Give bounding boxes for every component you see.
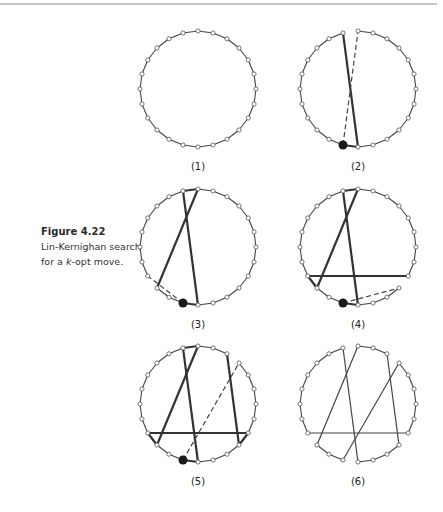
city-node — [225, 195, 229, 199]
city-node — [196, 344, 200, 348]
added-edge — [157, 346, 198, 445]
city-node — [327, 352, 331, 356]
city-node — [254, 245, 258, 249]
city-node — [412, 102, 416, 106]
city-node — [252, 72, 256, 76]
city-node — [155, 361, 159, 365]
panel-label: (3) — [191, 319, 205, 330]
city-node — [356, 29, 360, 33]
city-node — [211, 189, 215, 193]
city-node — [371, 189, 375, 193]
added-edge — [317, 189, 358, 288]
city-node — [327, 37, 331, 41]
city-node — [414, 87, 418, 91]
city-node — [254, 402, 258, 406]
city-node — [371, 458, 375, 462]
start-node — [178, 299, 187, 308]
city-node — [371, 346, 375, 350]
city-node — [167, 195, 171, 199]
city-node — [146, 431, 150, 435]
panel-2: (2) — [298, 29, 418, 172]
city-node — [356, 344, 360, 348]
city-node — [315, 286, 319, 290]
city-node — [371, 31, 375, 35]
city-node — [306, 216, 310, 220]
added-edge — [227, 354, 239, 445]
city-node — [146, 373, 150, 377]
city-node — [140, 72, 144, 76]
city-node — [385, 452, 389, 456]
city-node — [211, 458, 215, 462]
city-node — [155, 286, 159, 290]
city-node — [306, 58, 310, 62]
city-node — [300, 230, 304, 234]
city-node — [181, 346, 185, 350]
city-node — [327, 452, 331, 456]
city-node — [196, 460, 200, 464]
added-edge — [157, 189, 198, 288]
city-node — [356, 187, 360, 191]
city-node — [225, 352, 229, 356]
city-node — [211, 31, 215, 35]
city-node — [406, 274, 410, 278]
city-node — [211, 143, 215, 147]
city-node — [237, 204, 241, 208]
panel-label: (6) — [351, 476, 365, 487]
city-node — [298, 402, 302, 406]
city-node — [167, 295, 171, 299]
city-node — [385, 295, 389, 299]
city-node — [246, 431, 250, 435]
city-node — [412, 260, 416, 264]
city-node — [237, 443, 241, 447]
city-node — [300, 102, 304, 106]
city-node — [371, 301, 375, 305]
city-node — [406, 431, 410, 435]
city-node — [371, 143, 375, 147]
city-node — [225, 37, 229, 41]
start-node — [178, 456, 187, 465]
city-node — [385, 37, 389, 41]
city-node — [397, 128, 401, 132]
city-node — [385, 352, 389, 356]
city-node — [397, 286, 401, 290]
city-node — [140, 387, 144, 391]
city-node — [254, 87, 258, 91]
city-node — [181, 189, 185, 193]
city-node — [300, 72, 304, 76]
city-node — [406, 373, 410, 377]
city-node — [406, 116, 410, 120]
city-node — [406, 58, 410, 62]
city-node — [146, 116, 150, 120]
city-node — [306, 274, 310, 278]
start-node — [338, 141, 347, 150]
closing-edge-dashed — [148, 276, 183, 303]
city-node — [225, 452, 229, 456]
city-node — [167, 37, 171, 41]
city-node — [341, 458, 345, 462]
city-node — [327, 295, 331, 299]
panel-5: (5) — [138, 344, 258, 487]
city-node — [138, 245, 142, 249]
city-node — [196, 187, 200, 191]
added-edge — [343, 33, 358, 147]
city-node — [412, 72, 416, 76]
city-node — [155, 46, 159, 50]
city-node — [140, 260, 144, 264]
closing-edge-dashed — [343, 288, 399, 303]
panel-1: (1) — [138, 29, 258, 172]
city-node — [385, 195, 389, 199]
city-node — [211, 301, 215, 305]
city-node — [356, 303, 360, 307]
city-node — [306, 373, 310, 377]
city-node — [138, 402, 142, 406]
city-node — [146, 216, 150, 220]
city-node — [397, 443, 401, 447]
city-node — [225, 295, 229, 299]
city-node — [155, 204, 159, 208]
city-node — [298, 87, 302, 91]
city-node — [181, 31, 185, 35]
city-node — [414, 402, 418, 406]
city-node — [397, 46, 401, 50]
city-node — [237, 286, 241, 290]
city-node — [138, 87, 142, 91]
